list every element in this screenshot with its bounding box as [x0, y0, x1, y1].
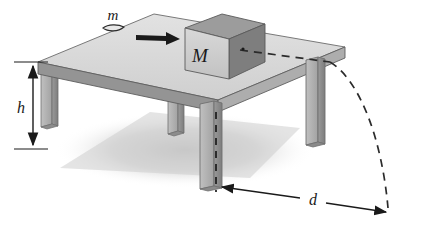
distance-dimension: d: [222, 187, 386, 212]
distance-arrow-right: [326, 203, 386, 212]
trajectory-arc: [330, 62, 388, 208]
physics-figure: M m h d: [0, 0, 424, 238]
table-leg-right: [306, 57, 325, 147]
height-label: h: [17, 99, 25, 116]
bullet-m: m: [103, 7, 124, 31]
block-mass-label: M: [191, 45, 209, 66]
trajectory-origin-dot: [241, 47, 244, 50]
distance-arrow-left: [222, 187, 300, 198]
table-leg-front-center: [200, 101, 222, 191]
distance-label: d: [309, 191, 318, 208]
diagram-canvas: M m h d: [0, 0, 424, 238]
ground-shadow: [55, 112, 315, 188]
bullet-mass-label: m: [108, 7, 119, 23]
